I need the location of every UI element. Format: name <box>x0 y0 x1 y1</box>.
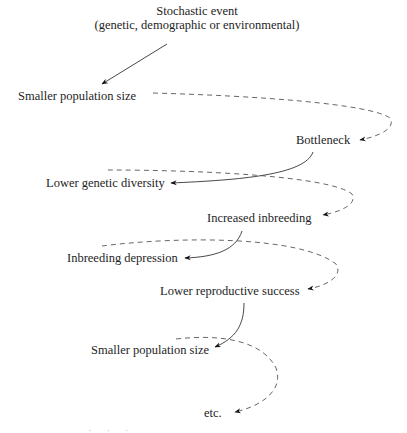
node-increased-inbreeding: Increased inbreeding <box>207 211 311 225</box>
stochastic-event-subtitle: (genetic, demographic or environmental) <box>80 18 314 32</box>
node-lower-reproductive-success: Lower reproductive success <box>160 284 300 298</box>
arrow-reproductive-success-to-smaller-population <box>215 303 244 347</box>
node-smaller-population-size-2: Smaller population size <box>91 343 209 357</box>
cropped-caption-fragment: · · · <box>88 424 135 433</box>
stochastic-event-node: Stochastic event (genetic, demographic o… <box>80 4 314 32</box>
arrow-smaller-population-to-bottleneck <box>153 93 391 140</box>
node-bottleneck: Bottleneck <box>296 133 350 147</box>
arrow-inbreeding-to-depression <box>185 231 242 258</box>
arrow-event-to-smaller-population <box>102 44 167 84</box>
stochastic-event-title: Stochastic event <box>80 4 314 18</box>
node-etc: etc. <box>204 406 222 420</box>
node-inbreeding-depression: Inbreeding depression <box>67 251 178 265</box>
node-lower-genetic-diversity: Lower genetic diversity <box>46 176 165 190</box>
diagram-arrows <box>0 0 407 433</box>
node-smaller-population-size: Smaller population size <box>18 89 136 103</box>
